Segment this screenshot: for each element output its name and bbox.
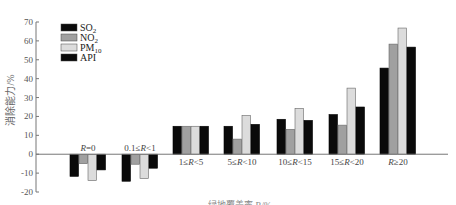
legend-swatch-so2: [61, 24, 77, 31]
bar-pm10: [398, 28, 407, 154]
y-axis-label: 消除能力/%: [4, 74, 16, 125]
category-label: 5≤R<10: [227, 157, 257, 167]
bar-so2: [380, 68, 389, 154]
bar-pm10: [242, 116, 251, 155]
y-tick-label: 10: [24, 130, 34, 140]
bar-so2: [70, 154, 79, 176]
y-tick-label: 70: [24, 17, 34, 27]
category-label: 15≤R<20: [330, 157, 364, 167]
bar-api: [200, 126, 209, 154]
bar-pm10: [140, 154, 149, 178]
bar-pm10: [88, 154, 97, 180]
y-tick-label: 0: [29, 149, 34, 159]
category-label: 1≤R<5: [179, 157, 204, 167]
y-tick-label: 40: [24, 74, 34, 84]
bar-so2: [224, 126, 233, 154]
bar-api: [251, 124, 260, 154]
legend-swatch-api: [61, 54, 77, 61]
bar-pm10: [191, 126, 200, 154]
bar-chart: 706050403020100-10-20 R=00.1≤R<11≤R<55≤R…: [0, 0, 456, 205]
bar-no2: [182, 126, 191, 154]
bar-so2: [277, 119, 286, 154]
bar-pm10: [347, 88, 356, 154]
bar-so2: [122, 154, 131, 181]
y-tick-label: -20: [21, 187, 33, 197]
legend-swatch-no2: [61, 34, 77, 41]
bar-no2: [389, 44, 398, 154]
y-tick-label: 30: [24, 93, 34, 103]
bar-api: [149, 154, 158, 168]
bar-api: [407, 47, 416, 154]
y-tick-label: 60: [24, 36, 34, 46]
y-tick-label: 50: [24, 55, 34, 65]
legend-label-api: API: [80, 52, 96, 63]
category-label: R≥20: [387, 157, 408, 167]
bar-api: [97, 154, 106, 170]
bar-api: [356, 107, 365, 154]
bar-no2: [79, 154, 88, 163]
y-axis: 706050403020100-10-20: [21, 17, 39, 197]
bar-pm10: [295, 108, 304, 154]
bar-no2: [286, 129, 295, 154]
legend-swatch-pm10: [61, 44, 77, 51]
x-axis-label: 绿地覆盖率 R/%: [208, 199, 272, 205]
category-label: R=0: [79, 143, 96, 153]
category-label: 10≤R<15: [278, 157, 312, 167]
bar-no2: [233, 139, 242, 154]
category-label: 0.1≤R<1: [124, 143, 155, 153]
bar-no2: [338, 125, 347, 154]
y-tick-label: -10: [21, 168, 33, 178]
bar-so2: [173, 126, 182, 154]
bar-no2: [131, 154, 140, 164]
y-tick-label: 20: [24, 111, 34, 121]
bar-api: [304, 120, 313, 154]
legend: SO2NO2PM10API: [61, 22, 102, 63]
bar-so2: [329, 115, 338, 155]
